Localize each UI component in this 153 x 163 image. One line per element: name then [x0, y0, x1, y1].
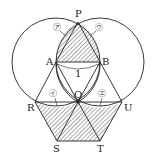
label-b: B [102, 57, 109, 67]
label-u: U [124, 103, 132, 113]
region-label-a: ㋐ [53, 24, 61, 32]
region-label-e: ㋓ [98, 90, 106, 98]
geometry-diagram [0, 0, 153, 163]
label-length: 1 [75, 69, 81, 79]
point-q-dot [76, 100, 79, 103]
label-s: S [53, 144, 60, 154]
region-label-i: ㋑ [49, 90, 57, 98]
region-label-u: ㋒ [95, 24, 103, 32]
label-p: P [75, 9, 82, 19]
label-a: A [46, 57, 53, 67]
label-t: T [97, 144, 104, 154]
label-q: Q [74, 90, 82, 100]
shaded-region-top [56, 22, 100, 62]
label-r: R [27, 103, 35, 113]
